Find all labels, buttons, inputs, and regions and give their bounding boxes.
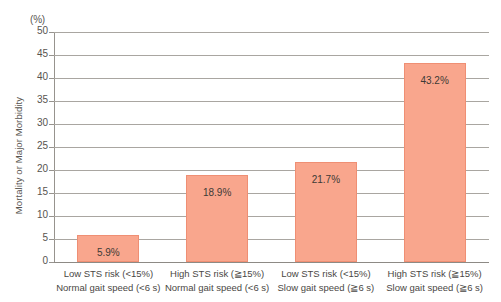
- y-axis-tick: [49, 239, 54, 240]
- gridline: [54, 55, 489, 56]
- x-axis-category-label: High STS risk (≧15%)Slow gait speed (≧6 …: [374, 267, 495, 294]
- y-axis-tick: [49, 124, 54, 125]
- y-axis-tick-label: 5: [4, 232, 48, 243]
- y-axis-tick-label: 25: [4, 140, 48, 151]
- x-axis-category-label-line: Low STS risk (<15%): [48, 267, 169, 281]
- y-axis-tick-label: 40: [4, 71, 48, 82]
- x-axis-category-label: Low STS risk (<15%)Normal gait speed (<6…: [48, 267, 169, 294]
- y-axis-tick-label: 15: [4, 186, 48, 197]
- y-axis-tick-label: 10: [4, 209, 48, 220]
- x-axis-category-label-line: Slow gait speed (≧6 s): [266, 281, 387, 295]
- bar-value-label: 18.9%: [172, 187, 262, 198]
- y-axis-tick-label: 0: [4, 255, 48, 266]
- y-axis-tick: [49, 78, 54, 79]
- bar-value-label: 21.7%: [281, 174, 371, 185]
- x-axis-category-label-line: Normal gait speed (<6 s): [157, 281, 278, 295]
- y-axis-tick: [49, 101, 54, 102]
- bar-value-label: 43.2%: [390, 75, 480, 86]
- bar-value-label: 5.9%: [63, 247, 153, 258]
- y-axis-tick: [49, 216, 54, 217]
- bar-chart: (%) Mortality or Major Morbidity 5045403…: [0, 0, 501, 302]
- y-axis-tick-label: 35: [4, 94, 48, 105]
- bar[interactable]: [404, 63, 466, 262]
- y-axis-tick: [49, 32, 54, 33]
- y-axis-tick: [49, 193, 54, 194]
- x-axis-category-label: High STS risk (≧15%)Normal gait speed (<…: [157, 267, 278, 294]
- x-axis-category-label-line: High STS risk (≧15%): [157, 267, 278, 281]
- x-axis-category-label-line: Normal gait speed (<6 s): [48, 281, 169, 295]
- plot-area: 504540353025201510505.9%18.9%21.7%43.2%: [54, 32, 489, 262]
- x-axis-category-label: Low STS risk (<15%)Slow gait speed (≧6 s…: [266, 267, 387, 294]
- y-axis-tick: [49, 262, 54, 263]
- y-axis-title: Mortality or Major Morbidity: [13, 56, 24, 256]
- gridline: [54, 32, 489, 33]
- y-axis-tick: [49, 170, 54, 171]
- y-axis-tick-label: 20: [4, 163, 48, 174]
- x-axis-category-label-line: Slow gait speed (≧6 s): [374, 281, 495, 295]
- y-axis-tick: [49, 147, 54, 148]
- y-axis-tick-label: 30: [4, 117, 48, 128]
- gridline: [54, 262, 489, 263]
- y-axis-tick-label: 50: [4, 25, 48, 36]
- y-axis-unit-label: (%): [30, 14, 45, 25]
- y-axis-tick-label: 45: [4, 48, 48, 59]
- y-axis-tick: [49, 55, 54, 56]
- x-axis-category-label-line: Low STS risk (<15%): [266, 267, 387, 281]
- x-axis-category-label-line: High STS risk (≧15%): [374, 267, 495, 281]
